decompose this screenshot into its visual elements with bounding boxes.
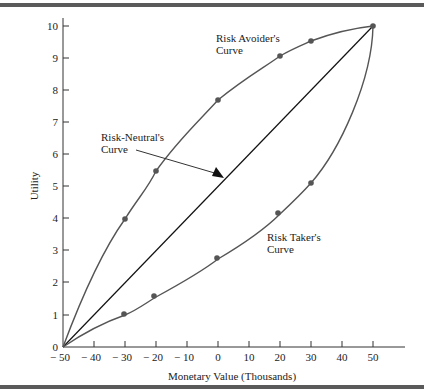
y-tick-5: 5 [53, 180, 59, 192]
x-tick-0: 0 [215, 351, 221, 363]
y-tick-labels: 0 1 2 3 4 5 6 7 8 9 10 [47, 20, 59, 353]
x-tick-40: 40 [337, 351, 349, 363]
x-tick-30: 30 [306, 351, 318, 363]
x-tick-neg50: − 50 [50, 351, 70, 363]
y-tick-2: 2 [53, 276, 59, 288]
y-axis-title: Utility [28, 171, 40, 200]
risk-taker-label-line1: Risk Taker's [267, 231, 321, 243]
risk-avoider-markers [122, 23, 376, 222]
x-tick-labels: − 50 − 40 − 30 − 20 − 10 0 10 20 30 40 5… [50, 351, 379, 363]
risk-avoider-label-line2: Curve [216, 44, 243, 56]
risk-avoider-label-line1: Risk Avoider's [216, 32, 280, 44]
x-tick-10: 10 [244, 351, 256, 363]
y-tick-8: 8 [53, 84, 59, 96]
y-tick-1: 1 [53, 309, 59, 321]
x-tick-neg10: − 10 [174, 351, 194, 363]
x-tick-neg40: − 40 [81, 351, 101, 363]
y-tick-10: 10 [47, 20, 59, 32]
y-tick-6: 6 [53, 148, 59, 160]
utility-chart: 0 1 2 3 4 5 6 7 8 9 10 − 50 − 40 − 30 − … [0, 0, 424, 391]
risk-neutral-line [63, 26, 373, 347]
risk-neutral-arrow [136, 150, 218, 174]
arrowhead-icon [212, 167, 224, 178]
y-tick-7: 7 [53, 116, 59, 128]
y-tick-4: 4 [53, 212, 59, 224]
risk-neutral-label-line1: Risk-Neutral's [101, 131, 164, 143]
risk-neutral-label-line2: Curve [101, 143, 128, 155]
y-tick-3: 3 [53, 244, 59, 256]
x-tick-neg30: − 30 [112, 351, 132, 363]
x-tick-neg20: − 20 [143, 351, 163, 363]
x-tick-50: 50 [368, 351, 380, 363]
y-tick-9: 9 [53, 52, 59, 64]
risk-taker-label-line2: Curve [267, 243, 294, 255]
x-tick-20: 20 [275, 351, 287, 363]
x-axis-title: Monetary Value (Thousands) [168, 370, 296, 383]
axes [63, 18, 405, 347]
